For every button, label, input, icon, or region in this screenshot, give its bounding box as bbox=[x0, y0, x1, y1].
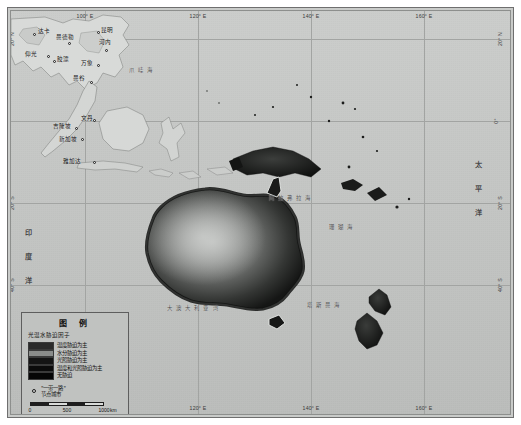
legend-entry-label: 温度和光照胁迫为主 bbox=[57, 365, 102, 373]
new-guinea-landmass bbox=[229, 147, 321, 177]
city-label: 曼德勒 bbox=[56, 33, 74, 41]
city-label: 昆明 bbox=[101, 26, 113, 34]
city-marker[interactable] bbox=[81, 138, 84, 141]
map-frame: 太 平 洋印 度 洋 阿 拉 弗 拉 海大 澳 大 利 亚 湾塔 斯 曼 海珊 … bbox=[7, 7, 514, 418]
scale-unit-label: km bbox=[110, 407, 117, 413]
lat-tick-right: 0° bbox=[493, 118, 499, 123]
lon-tick-top: 120° E bbox=[190, 13, 207, 19]
legend-swatch bbox=[28, 350, 54, 358]
sea-label: 阿 拉 弗 拉 海 bbox=[269, 194, 312, 202]
legend-city-label-line1: "一带一路" bbox=[41, 385, 66, 391]
lon-tick-top: 100° E bbox=[77, 13, 94, 19]
legend-swatch bbox=[28, 365, 54, 373]
legend-swatch bbox=[28, 357, 54, 365]
city-label: 仰光 bbox=[25, 50, 37, 58]
sea-label: 塔 斯 曼 海 bbox=[307, 301, 341, 309]
graticule-parallel bbox=[11, 39, 510, 40]
map-legend: 图 例 光温水胁迫因子 温度胁迫为主水分胁迫为主光照胁迫为主温度和光照胁迫为主无… bbox=[21, 312, 129, 415]
lesser-sunda-landmass bbox=[149, 167, 233, 179]
legend-swatch bbox=[28, 342, 54, 350]
legend-entry-label: 温度胁迫为主 bbox=[57, 342, 102, 350]
graticule-parallel bbox=[11, 285, 510, 286]
legend-entries: 温度胁迫为主水分胁迫为主光照胁迫为主温度和光照胁迫为主无胁迫 bbox=[28, 342, 124, 380]
lat-tick-right: 20° N bbox=[497, 32, 503, 46]
pacific-islands bbox=[206, 84, 410, 209]
sea-label: 爪 哇 海 bbox=[129, 66, 153, 74]
scale-tick-label: 0 bbox=[29, 407, 32, 413]
legend-subtitle: 光温水胁迫因子 bbox=[28, 331, 124, 339]
legend-city-entry: "一带一路" 节点城市 bbox=[29, 385, 124, 398]
city-marker[interactable] bbox=[53, 60, 56, 63]
city-label: 达卡 bbox=[38, 27, 50, 35]
lat-tick-right: 40° S bbox=[497, 278, 503, 292]
graticule-parallel bbox=[11, 203, 510, 204]
map-screenshot: 太 平 洋印 度 洋 阿 拉 弗 拉 海大 澳 大 利 亚 湾塔 斯 曼 海珊 … bbox=[0, 0, 521, 425]
legend-swatch-column bbox=[28, 342, 54, 380]
city-label: 新加坡 bbox=[59, 135, 77, 143]
lon-tick-bottom: 160° E bbox=[416, 405, 433, 411]
city-marker[interactable] bbox=[93, 161, 96, 164]
city-marker[interactable] bbox=[68, 42, 71, 45]
map-canvas: 太 平 洋印 度 洋 阿 拉 弗 拉 海大 澳 大 利 亚 湾塔 斯 曼 海珊 … bbox=[10, 10, 511, 415]
legend-city-label-line2: 节点城市 bbox=[41, 391, 66, 397]
city-label: 雅加达 bbox=[63, 157, 81, 165]
city-label: 文丹 bbox=[81, 114, 93, 122]
city-marker[interactable] bbox=[97, 64, 100, 67]
lat-tick-left: 40° S bbox=[10, 278, 15, 292]
city-marker[interactable] bbox=[90, 81, 93, 84]
ocean-label: 印 度 洋 bbox=[23, 229, 33, 288]
lon-tick-bottom: 120° E bbox=[190, 405, 207, 411]
lon-tick-bottom: 140° E bbox=[303, 405, 320, 411]
city-marker[interactable] bbox=[33, 33, 36, 36]
borneo-landmass bbox=[99, 107, 149, 151]
city-marker[interactable] bbox=[75, 127, 78, 130]
lat-tick-left: 0° bbox=[10, 118, 11, 123]
scale-segment bbox=[49, 403, 67, 405]
city-marker[interactable] bbox=[97, 31, 100, 34]
lat-tick-right: 20° S bbox=[497, 196, 503, 210]
scale-segment bbox=[31, 403, 49, 405]
city-marker-icon bbox=[32, 389, 36, 393]
legend-entry-label: 水分胁迫为主 bbox=[57, 350, 102, 358]
scale-bar: 05001000km bbox=[30, 402, 122, 415]
city-marker[interactable] bbox=[93, 119, 96, 122]
scale-segment bbox=[85, 403, 103, 405]
city-label: 万象 bbox=[81, 59, 93, 67]
graticule-meridian bbox=[424, 11, 425, 414]
lon-tick-top: 160° E bbox=[416, 13, 433, 19]
legend-entry-label: 无胁迫 bbox=[57, 372, 102, 380]
lon-tick-top: 140° E bbox=[303, 13, 320, 19]
city-marker[interactable] bbox=[105, 49, 108, 52]
city-label: 胶漂 bbox=[57, 55, 69, 63]
city-label: 河内 bbox=[99, 38, 111, 46]
scale-tick-label: 1000 bbox=[98, 407, 109, 413]
scale-tick-label: 500 bbox=[63, 407, 71, 413]
city-label: 曼谷 bbox=[73, 74, 85, 82]
graticule-meridian bbox=[311, 11, 312, 414]
ocean-label: 太 平 洋 bbox=[473, 161, 483, 220]
legend-city-label: "一带一路" 节点城市 bbox=[41, 385, 66, 398]
scale-segment bbox=[67, 403, 85, 405]
java-landmass bbox=[77, 161, 143, 172]
sea-label: 大 澳 大 利 亚 湾 bbox=[167, 304, 219, 312]
new-zealand-landmass bbox=[355, 289, 391, 349]
sea-label: 珊 瑚 海 bbox=[329, 223, 353, 231]
city-marker[interactable] bbox=[47, 55, 50, 58]
legend-entry-label: 光照胁迫为主 bbox=[57, 357, 102, 365]
scale-bar-track bbox=[30, 402, 104, 406]
scale-bar-labels: 05001000km bbox=[30, 407, 122, 415]
legend-swatch bbox=[28, 372, 54, 380]
lat-tick-left: 20° S bbox=[10, 196, 15, 210]
graticule-meridian bbox=[198, 11, 199, 414]
city-label: 吉隆坡 bbox=[53, 122, 71, 130]
legend-title: 图 例 bbox=[27, 317, 124, 328]
legend-label-column: 温度胁迫为主水分胁迫为主光照胁迫为主温度和光照胁迫为主无胁迫 bbox=[57, 342, 102, 380]
lat-tick-left: 20° N bbox=[10, 32, 15, 46]
sulawesi-landmass bbox=[159, 117, 185, 161]
